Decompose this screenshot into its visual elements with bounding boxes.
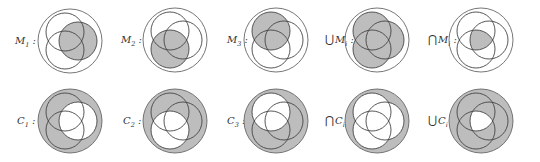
set-label-C1: C1 : bbox=[16, 114, 35, 129]
set-symbol: C bbox=[17, 115, 25, 126]
set-label-C2: C2 : bbox=[122, 114, 141, 129]
set-symbol: C bbox=[123, 115, 131, 126]
label-colon: : bbox=[29, 115, 36, 126]
set-symbol: M bbox=[15, 35, 25, 46]
venn-M3 bbox=[242, 6, 310, 74]
set-label-M2: M2 : bbox=[120, 33, 142, 48]
venn-M2 bbox=[141, 6, 209, 74]
venn-union-C bbox=[447, 87, 515, 155]
set-operator: ⋂ bbox=[428, 33, 437, 46]
set-symbol: C bbox=[335, 115, 343, 126]
set-symbol: C bbox=[227, 115, 235, 126]
venn-M1 bbox=[36, 7, 104, 75]
venn-C1 bbox=[36, 87, 104, 155]
venn-intersect-C bbox=[343, 87, 411, 155]
set-operator: ⋃ bbox=[428, 114, 437, 127]
venn-union-M bbox=[343, 6, 411, 74]
label-colon: : bbox=[29, 35, 36, 46]
set-symbol: M bbox=[121, 34, 131, 45]
venn-C3 bbox=[242, 87, 310, 155]
set-symbol: C bbox=[438, 115, 446, 126]
venn-C2 bbox=[141, 87, 209, 155]
set-label-M1: M1 : bbox=[14, 34, 36, 49]
set-operator: ⋂ bbox=[325, 114, 334, 127]
venn-intersect-M bbox=[447, 6, 515, 74]
set-operator: ⋃ bbox=[325, 33, 334, 46]
set-symbol: M bbox=[227, 34, 237, 45]
